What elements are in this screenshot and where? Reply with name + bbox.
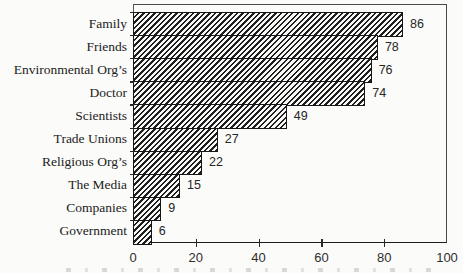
scan-artifact (52, 268, 442, 272)
category-axis-tick (130, 104, 134, 105)
bar-value-label: 9 (168, 201, 175, 215)
category-label: Scientists (0, 108, 127, 124)
x-axis-tick-label: 60 (314, 250, 328, 265)
bar (133, 58, 372, 83)
category-axis-tick (130, 151, 134, 152)
x-axis-tick-label: 0 (129, 250, 136, 265)
category-axis-tick (130, 58, 134, 59)
bar (133, 220, 152, 245)
bar (133, 151, 202, 176)
bar-value-label: 78 (385, 40, 399, 54)
category-label: Trade Unions (0, 131, 127, 147)
x-axis-tick-label: 20 (189, 250, 203, 265)
x-axis-tick (259, 239, 260, 247)
bar (133, 81, 365, 106)
category-axis-tick (130, 220, 134, 221)
category-label: Family (0, 16, 127, 32)
bar-value-label: 74 (372, 86, 386, 100)
category-label: Companies (0, 200, 127, 216)
bar (133, 12, 403, 37)
category-label: Friends (0, 39, 127, 55)
bar-value-label: 86 (410, 17, 424, 31)
category-label: Government (0, 223, 127, 239)
x-axis-tick (384, 239, 385, 247)
x-axis-tick-label: 40 (251, 250, 265, 265)
category-axis-tick (130, 12, 134, 13)
bar (133, 174, 180, 199)
category-label: Religious Org’s (0, 154, 127, 170)
x-axis-tick-label: 80 (377, 250, 391, 265)
bar-value-label: 27 (225, 132, 239, 146)
bar-value-label: 6 (159, 224, 166, 238)
bar-value-label: 49 (294, 109, 308, 123)
category-axis-tick (130, 174, 134, 175)
bar-value-label: 76 (379, 63, 393, 77)
bar-value-label: 15 (187, 178, 201, 192)
category-axis-tick (130, 35, 134, 36)
category-label: The Media (0, 177, 127, 193)
bar-chart: Family86Friends78Environmental Org’s76Do… (0, 0, 463, 273)
category-axis-tick (130, 197, 134, 198)
bar (133, 197, 161, 222)
bar (133, 128, 218, 153)
x-axis-tick (196, 239, 197, 247)
bar (133, 35, 378, 60)
bar (133, 104, 287, 129)
x-axis-tick-label: 100 (436, 250, 458, 265)
category-axis-tick (130, 128, 134, 129)
x-axis-tick (321, 239, 322, 247)
bar-value-label: 22 (209, 155, 223, 169)
category-axis-tick (130, 81, 134, 82)
category-label: Doctor (0, 85, 127, 101)
category-label: Environmental Org’s (0, 62, 127, 78)
